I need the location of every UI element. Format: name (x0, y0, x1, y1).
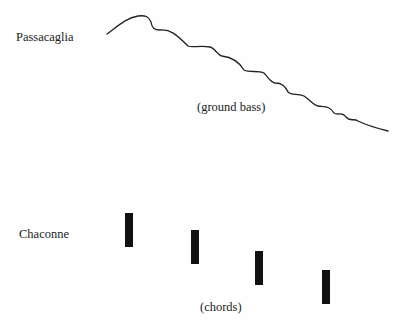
chord-bar-4 (322, 270, 330, 304)
chord-bar-1 (125, 213, 133, 247)
diagram-canvas: Passacaglia (ground bass) Chaconne (chor… (0, 0, 403, 327)
chord-bar-3 (255, 251, 263, 285)
chord-bars (0, 0, 403, 327)
chord-bar-2 (191, 230, 199, 264)
